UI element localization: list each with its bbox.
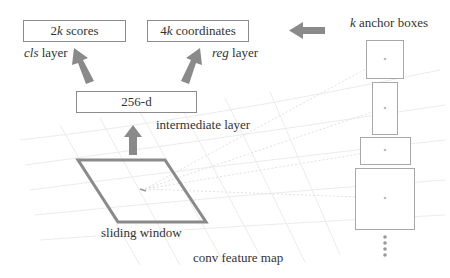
arrow-up-intermediate xyxy=(124,125,142,155)
arrow-left-anchors xyxy=(289,22,325,39)
cls-rest: layer xyxy=(38,45,67,60)
anchor-boxes xyxy=(356,41,415,230)
anchor-boxes-label: k anchor boxes xyxy=(350,15,428,31)
scores-suffix: scores xyxy=(63,23,99,38)
scores-box: 2k scores xyxy=(23,20,126,42)
intermediate-box-label: 256-d xyxy=(121,94,151,109)
reg-italic: reg xyxy=(212,45,229,60)
arrow-to-reg xyxy=(181,48,202,84)
reg-rest: layer xyxy=(229,45,258,60)
ellipsis-dots-icon xyxy=(383,235,387,257)
cls-italic: cls xyxy=(24,45,38,60)
intermediate-layer-label: intermediate layer xyxy=(156,117,250,133)
sliding-window-label: sliding window xyxy=(101,225,182,241)
intermediate-box: 256-d xyxy=(76,91,197,113)
arrow-to-cls xyxy=(72,48,94,84)
sliding-window-shape xyxy=(78,160,206,222)
coordinates-suffix: coordinates xyxy=(173,23,236,38)
reg-layer-label: reg layer xyxy=(212,45,258,61)
anchor-rest: anchor boxes xyxy=(356,15,428,30)
coordinates-box: 4k coordinates xyxy=(147,20,249,42)
conv-feature-map-label: conv feature map xyxy=(193,250,283,266)
cls-layer-label: cls layer xyxy=(24,45,68,61)
